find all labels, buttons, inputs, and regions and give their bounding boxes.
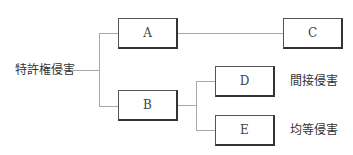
node-a-label: A [143, 26, 152, 40]
connector-a-to-c [177, 33, 284, 34]
node-e-label: E [240, 123, 249, 137]
node-d: D [215, 66, 275, 97]
root-label: 特許権侵害 [15, 63, 75, 77]
node-b-label: B [143, 98, 152, 112]
node-a: A [118, 18, 178, 49]
node-b: B [118, 90, 178, 121]
connector-to-b [99, 106, 119, 107]
connector-b-vertical [196, 81, 197, 130]
connector-root-vertical [99, 33, 100, 107]
connector-to-a [99, 33, 119, 34]
connector-b-horizontal [177, 105, 196, 106]
connector-to-e [196, 130, 216, 131]
node-c-label: C [308, 26, 317, 40]
node-d-label: D [240, 74, 250, 88]
node-c: C [283, 18, 343, 49]
node-e-annotation: 均等侵害 [290, 123, 338, 137]
node-d-annotation: 間接侵害 [290, 74, 338, 88]
connector-to-d [196, 81, 216, 82]
connector-root-horizontal [71, 70, 99, 71]
node-e: E [215, 115, 275, 146]
